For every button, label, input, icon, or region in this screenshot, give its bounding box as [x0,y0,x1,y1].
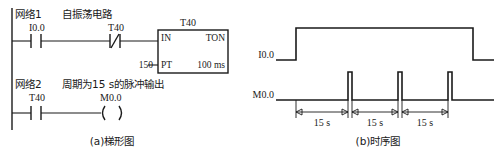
network2-contact1-label: T40 [29,92,45,103]
waveform-m00 [276,72,494,100]
network1-comment: 自振荡电路 [62,8,113,20]
network2-coil-label: M0.0 [100,92,121,103]
caption-b: (b)时序图 [356,135,401,147]
coil-right-arc-icon [119,106,122,120]
timer-name-label: T40 [180,17,196,28]
ladder-diagram-svg: 网络1 自振荡电路 I0.0 T40 T40 IN TON PT 100 ms [0,0,248,153]
timer-type-label: TON [206,33,225,43]
ladder-diagram-panel: 网络1 自振荡电路 I0.0 T40 T40 IN TON PT 100 ms [0,0,248,153]
timer-in-label: IN [161,33,171,43]
network1-contact1-label: I0.0 [29,22,45,33]
network1-contact2-label: T40 [108,22,124,33]
timing-diagram-panel: I0.0 M0.0 15 s 15 s 15 s [248,0,496,153]
timer-timebase-label: 100 ms [197,60,225,70]
signal-label-i00: I0.0 [258,49,274,60]
contact-t40nc-slash-icon [111,34,119,48]
timing-diagram-svg: I0.0 M0.0 15 s 15 s 15 s [248,0,496,153]
plc-figure: 网络1 自振荡电路 I0.0 T40 T40 IN TON PT 100 ms [0,0,496,153]
interval-label-1: 15 s [314,117,331,128]
timer-pt-label: PT [161,60,172,70]
waveform-i00 [276,28,494,60]
coil-left-arc-icon [103,106,106,120]
network2-label: 网络2 [15,78,42,90]
caption-a: (a)梯形图 [90,135,135,147]
interval-label-3: 15 s [417,117,434,128]
signal-label-m00: M0.0 [253,89,274,100]
network2-comment: 周期为15 s的脉冲输出 [62,78,164,90]
interval-label-2: 15 s [367,117,384,128]
network1-label: 网络1 [15,8,42,20]
